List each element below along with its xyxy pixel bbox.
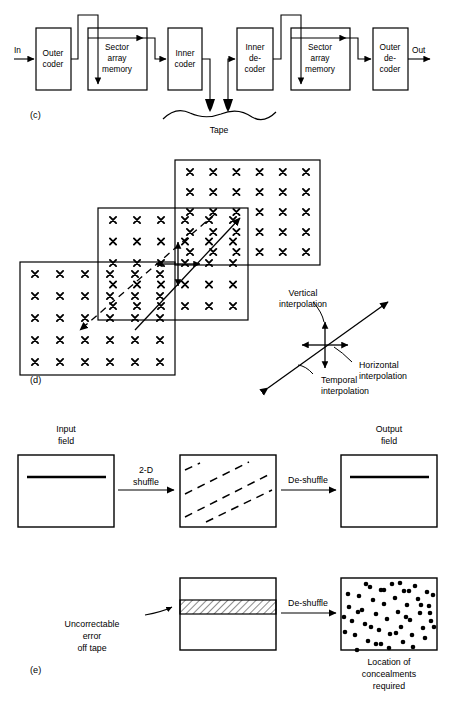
- panel-d-sample-grids: [0, 0, 453, 703]
- field-middle-samples: [110, 217, 236, 309]
- field-back-samples: [187, 169, 309, 255]
- figure-page: In Out Outer coder Sector array memory I…: [0, 0, 453, 703]
- field-front-samples: [32, 271, 163, 365]
